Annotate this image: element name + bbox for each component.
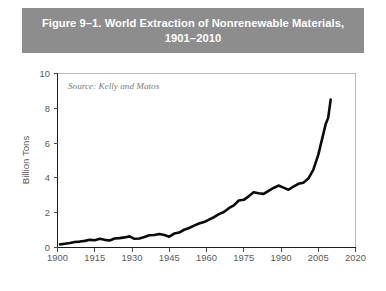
y-tick-label-6: 6 [45, 138, 50, 149]
figure-title-banner: Figure 9–1. World Extraction of Nonrenew… [22, 8, 364, 53]
x-tick-label-1900: 1900 [47, 252, 68, 263]
y-tick-label-8: 8 [45, 103, 50, 114]
y-axis-title: Billion Tons [20, 136, 31, 185]
x-tick-label-1975: 1975 [233, 252, 254, 263]
source-note: Source: Kelly and Matos [68, 81, 160, 91]
data-series-line [60, 100, 331, 245]
y-axis-ticks [54, 74, 58, 248]
figure-title: Figure 9–1. World Extraction of Nonrenew… [42, 16, 344, 45]
x-tick-label-1930: 1930 [122, 252, 143, 263]
x-axis-ticks [58, 248, 356, 252]
x-tick-label-1960: 1960 [196, 252, 217, 263]
x-axis-tick-labels: 1900 1915 1930 1945 1960 1975 1990 2005 … [47, 252, 366, 263]
y-tick-label-4: 4 [45, 172, 50, 183]
figure-page: Figure 9–1. World Extraction of Nonrenew… [0, 0, 386, 291]
y-tick-label-10: 10 [40, 68, 50, 79]
y-axis-tick-labels: 0 2 4 6 8 10 [40, 68, 50, 253]
x-tick-label-1990: 1990 [271, 252, 292, 263]
x-tick-label-1915: 1915 [84, 252, 105, 263]
x-tick-label-2005: 2005 [308, 252, 329, 263]
y-tick-label-2: 2 [45, 207, 50, 218]
line-chart: 0 2 4 6 8 10 1900 1 [0, 56, 386, 281]
x-tick-label-1945: 1945 [159, 252, 180, 263]
chart-figure: 0 2 4 6 8 10 1900 1 [0, 56, 386, 281]
x-tick-label-2020: 2020 [345, 252, 366, 263]
